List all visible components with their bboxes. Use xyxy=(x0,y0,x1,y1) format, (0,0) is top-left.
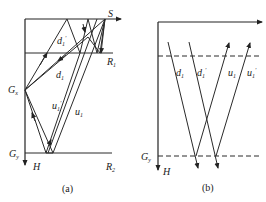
h-label-a: H xyxy=(32,161,41,172)
panel-a: S R1 R2 Gx Gy H d1′ d1 u1′ u1 (a) xyxy=(8,8,121,195)
h-label-b: H xyxy=(162,166,171,177)
d1-arrow xyxy=(58,55,66,61)
gy-label-b: Gy xyxy=(141,151,151,163)
d1-prime-arrow xyxy=(40,53,47,65)
u1-ray xyxy=(196,43,229,156)
u1-prime-ray xyxy=(216,43,250,156)
r1-label: R1 xyxy=(106,56,116,68)
u1-label-b: u1 xyxy=(228,67,236,79)
d1-prime-label-a: d1′ xyxy=(57,35,67,47)
panel-b: d1 d1′ u1 u1′ Gy H (b) xyxy=(141,22,262,194)
caption-b: (b) xyxy=(202,182,214,194)
source-label: S xyxy=(108,8,113,19)
wave-path-diagram: S R1 R2 Gx Gy H d1′ d1 u1′ u1 (a) d1 d1′… xyxy=(0,0,266,202)
u1-label-a: u1 xyxy=(75,106,83,118)
r2-label: R2 xyxy=(105,161,115,173)
d1-label-b: d1 xyxy=(176,67,184,79)
gx-label: Gx xyxy=(8,84,18,96)
caption-a: (a) xyxy=(62,183,73,195)
d1-prime-label-b: d1′ xyxy=(197,67,207,79)
d1-label-a: d1 xyxy=(56,69,64,81)
gy-label-a: Gy xyxy=(9,148,19,160)
u1-prime-label-b: u1′ xyxy=(247,67,257,79)
